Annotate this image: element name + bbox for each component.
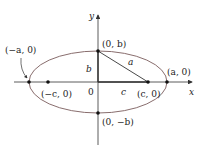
label-segment-b: b bbox=[86, 64, 92, 74]
label-co-vertex-top: (0, b) bbox=[102, 39, 126, 49]
x-axis-label: x bbox=[189, 87, 194, 97]
pointer-arrow-icon bbox=[21, 58, 27, 78]
point-co-vertex-bottom bbox=[96, 111, 100, 115]
point-co-vertex-top bbox=[96, 49, 100, 53]
label-focus-right: (c, 0) bbox=[137, 89, 161, 99]
label-segment-a: a bbox=[128, 57, 133, 67]
point-vertex-right bbox=[165, 80, 169, 84]
ellipse-diagram: y x 0 (−a, 0) (−c, 0) (0, b) (c, 0) (a, … bbox=[0, 0, 203, 148]
y-axis-label: y bbox=[88, 11, 95, 21]
segment-a bbox=[98, 51, 148, 82]
label-co-vertex-bottom: (0, −b) bbox=[102, 117, 134, 127]
label-focus-left: (−c, 0) bbox=[41, 89, 72, 99]
point-focus-right bbox=[146, 80, 150, 84]
origin-label: 0 bbox=[88, 87, 94, 97]
point-focus-left bbox=[46, 80, 50, 84]
label-vertex-left: (−a, 0) bbox=[5, 45, 36, 55]
point-vertex-left bbox=[27, 80, 31, 84]
label-segment-c: c bbox=[121, 87, 126, 97]
label-vertex-right: (a, 0) bbox=[167, 67, 191, 77]
